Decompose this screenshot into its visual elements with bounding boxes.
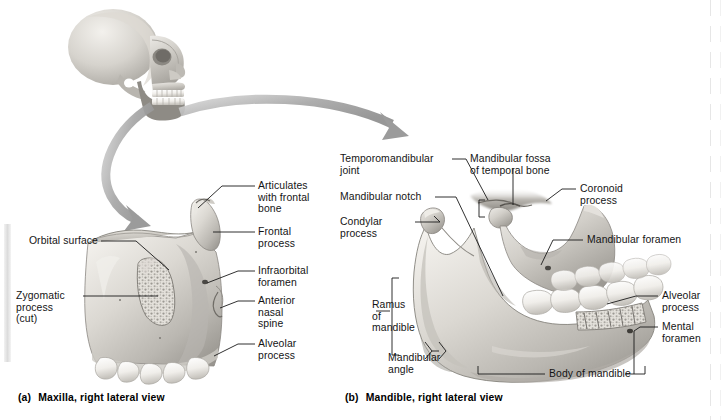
label-anterior-nasal-spine: Anterior nasal spine [258, 295, 295, 330]
maxilla-illustration [85, 198, 223, 384]
caption-plate-b: (b) [345, 392, 359, 403]
caption-text-a: Maxilla, right lateral view [38, 392, 164, 403]
caption-panel-a: (a) Maxilla, right lateral view [18, 392, 165, 403]
skull-upper-teeth [152, 90, 184, 97]
label-articulates-with-frontal-bone: Articulates with frontal bone [258, 180, 309, 215]
mandible-illustration [413, 188, 671, 383]
leader-coronoid-process [546, 189, 576, 201]
label-body-of-mandible: Body of mandible [549, 368, 631, 380]
mandibular-fossa-temporal-bone [470, 188, 552, 211]
label-mandibular-angle: Mandibular angle [388, 352, 440, 375]
caption-text-b: Mandible, right lateral view [366, 392, 503, 403]
label-temporomandibular-joint: Temporomandibular joint [340, 153, 434, 176]
caption-plate-a: (a) [18, 392, 31, 403]
label-alveolar-process-b: Alveolar process [662, 290, 700, 313]
label-mandibular-fossa-of-temporal-bone: Mandibular fossa of temporal bone [470, 153, 551, 176]
label-mandibular-foramen: Mandibular foramen [587, 234, 681, 246]
label-condylar-process: Condylar process [340, 216, 382, 239]
illustration-layer [0, 0, 723, 420]
arrow-to-mandible [180, 99, 409, 140]
label-infraorbital-foramen: Infraorbital foramen [258, 265, 308, 288]
leader-anterior-nasal-spine [220, 301, 255, 308]
mental-foramen-mark [627, 329, 633, 334]
lateral-skull-orientation-figure [68, 9, 185, 121]
label-mandibular-notch: Mandibular notch [340, 191, 421, 203]
leader-alveolar-process [214, 344, 255, 356]
infraorbital-foramen-mark [202, 280, 208, 284]
arrow-to-maxilla [106, 106, 152, 231]
mandibular-foramen-mark [545, 266, 551, 271]
label-alveolar-process-a: Alveolar process [258, 338, 296, 361]
label-mental-foramen: Mental foramen [662, 321, 701, 344]
anatomy-figure: Articulates with frontal bone Frontal pr… [0, 0, 723, 420]
label-ramus-of-mandible: Ramus of mandible [372, 299, 415, 334]
label-orbital-surface: Orbital surface [16, 235, 98, 247]
caption-panel-b: (b) Mandible, right lateral view [345, 392, 503, 403]
label-coronoid-process: Coronoid process [580, 183, 623, 206]
label-zygomatic-process-cut: Zygomatic process (cut) [16, 290, 65, 325]
label-frontal-process: Frontal process [258, 226, 295, 249]
